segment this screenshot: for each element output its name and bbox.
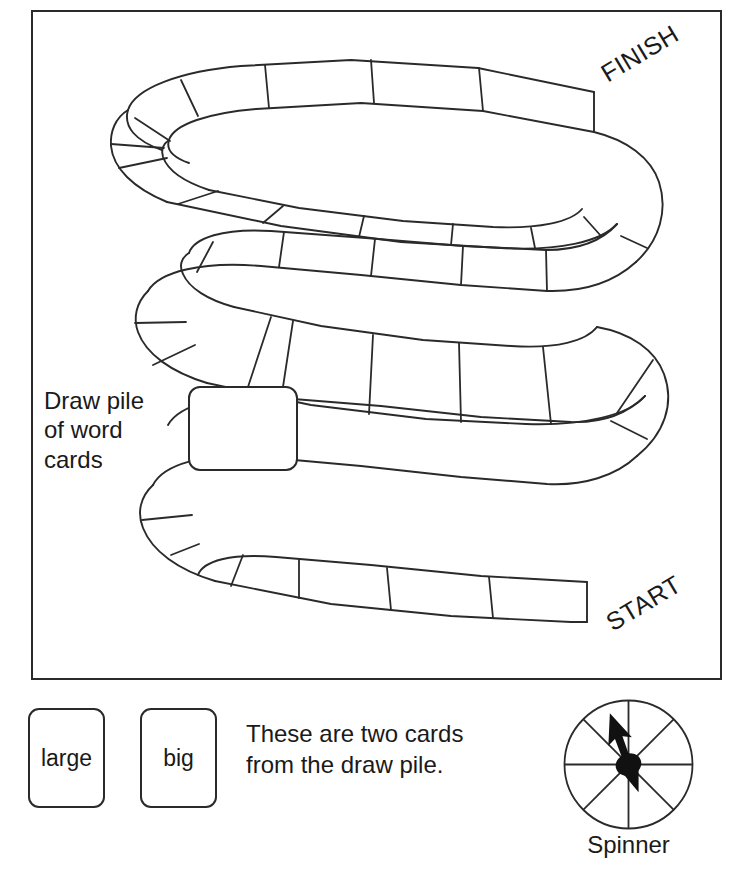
spinner-caption: Spinner (562, 831, 695, 859)
spinner[interactable]: Spinner (562, 698, 712, 873)
game-board-frame (31, 10, 722, 680)
word-card-label: big (163, 745, 194, 772)
cards-note: These are two cards from the draw pile. (246, 718, 463, 780)
draw-pile-box[interactable] (188, 386, 298, 471)
draw-pile-caption: Draw pile of word cards (44, 386, 144, 474)
word-card-label: large (41, 745, 92, 772)
word-card-big[interactable]: big (140, 708, 217, 808)
spinner-dial[interactable] (562, 698, 695, 831)
worksheet-page: FINISH START Draw pile of word cards lar… (0, 0, 738, 882)
legend-area: large big These are two cards from the d… (0, 690, 738, 882)
word-card-large[interactable]: large (28, 708, 105, 808)
